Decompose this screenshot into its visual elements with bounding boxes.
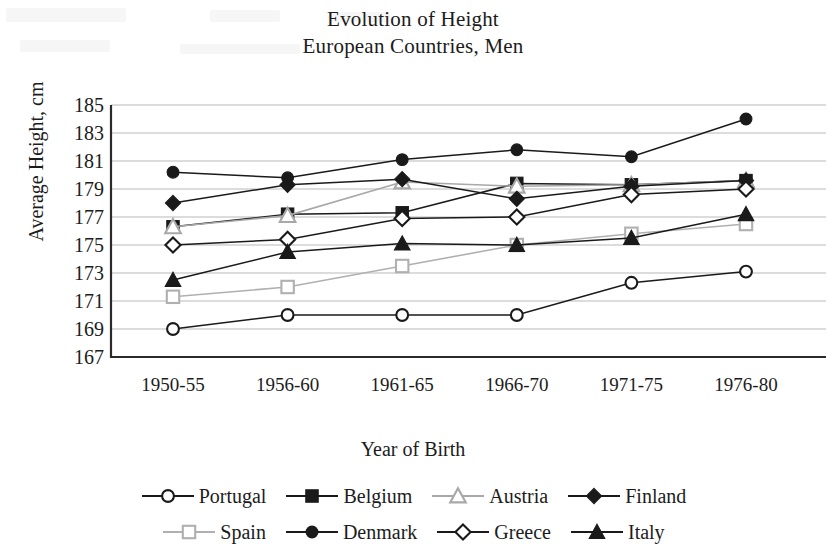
series-denmark bbox=[167, 113, 752, 184]
legend-item-denmark[interactable]: Denmark bbox=[284, 521, 417, 544]
legend-label: Denmark bbox=[343, 521, 417, 544]
series-line bbox=[173, 181, 746, 227]
data-point-marker bbox=[167, 291, 179, 303]
series-line bbox=[173, 272, 746, 329]
legend-marker-filled-circle-icon bbox=[284, 521, 340, 543]
plot-area bbox=[0, 0, 826, 555]
data-point-marker bbox=[394, 236, 410, 250]
series-line bbox=[173, 119, 746, 178]
legend-marker-open-square-icon bbox=[161, 521, 217, 543]
legend-marker-open-triangle-icon bbox=[430, 485, 486, 507]
legend-item-belgium[interactable]: Belgium bbox=[284, 485, 412, 508]
data-point-marker bbox=[396, 154, 408, 166]
legend-label: Italy bbox=[628, 521, 665, 544]
chart-legend: PortugalBelgiumAustriaFinlandSpainDenmar… bbox=[0, 478, 826, 550]
legend-label: Finland bbox=[625, 485, 686, 508]
data-point-marker bbox=[738, 206, 754, 220]
data-point-marker bbox=[162, 490, 174, 502]
chart-figure: Evolution of Height European Countries, … bbox=[0, 0, 826, 555]
data-point-marker bbox=[456, 524, 471, 539]
data-point-marker bbox=[509, 209, 524, 224]
series-austria bbox=[165, 173, 754, 233]
legend-label: Austria bbox=[489, 485, 548, 508]
data-point-marker bbox=[626, 277, 638, 289]
data-point-marker bbox=[306, 490, 318, 502]
legend-row: SpainDenmarkGreeceItaly bbox=[0, 514, 826, 550]
legend-marker-filled-triangle-icon bbox=[569, 521, 625, 543]
data-point-marker bbox=[165, 237, 180, 252]
data-point-marker bbox=[396, 260, 408, 272]
data-point-marker bbox=[167, 323, 179, 335]
legend-item-finland[interactable]: Finland bbox=[566, 485, 686, 508]
data-point-marker bbox=[740, 113, 752, 125]
legend-item-greece[interactable]: Greece bbox=[435, 521, 551, 544]
data-point-marker bbox=[281, 281, 293, 293]
data-point-marker bbox=[183, 526, 195, 538]
legend-item-portugal[interactable]: Portugal bbox=[140, 485, 267, 508]
data-point-marker bbox=[396, 309, 408, 321]
series-line bbox=[173, 179, 746, 203]
data-point-marker bbox=[740, 266, 752, 278]
data-point-marker bbox=[167, 166, 179, 178]
legend-label: Spain bbox=[220, 521, 266, 544]
legend-marker-open-circle-icon bbox=[140, 485, 196, 507]
series-line bbox=[173, 181, 746, 227]
legend-marker-open-diamond-icon bbox=[435, 521, 491, 543]
legend-marker-filled-square-icon bbox=[284, 485, 340, 507]
data-point-marker bbox=[306, 526, 318, 538]
legend-marker-filled-diamond-icon bbox=[566, 485, 622, 507]
legend-item-spain[interactable]: Spain bbox=[161, 521, 266, 544]
data-point-marker bbox=[282, 309, 294, 321]
series-portugal bbox=[167, 266, 752, 335]
legend-row: PortugalBelgiumAustriaFinland bbox=[0, 478, 826, 514]
legend-label: Greece bbox=[494, 521, 551, 544]
legend-item-italy[interactable]: Italy bbox=[569, 521, 665, 544]
series-finland bbox=[165, 172, 753, 211]
legend-item-austria[interactable]: Austria bbox=[430, 485, 548, 508]
legend-label: Portugal bbox=[199, 485, 267, 508]
data-point-marker bbox=[626, 151, 638, 163]
data-point-marker bbox=[165, 195, 180, 210]
legend-label: Belgium bbox=[343, 485, 412, 508]
data-point-marker bbox=[282, 172, 294, 184]
series-line bbox=[173, 224, 746, 297]
series-line bbox=[173, 214, 746, 280]
data-point-marker bbox=[511, 309, 523, 321]
data-point-marker bbox=[587, 488, 602, 503]
data-point-marker bbox=[511, 144, 523, 156]
